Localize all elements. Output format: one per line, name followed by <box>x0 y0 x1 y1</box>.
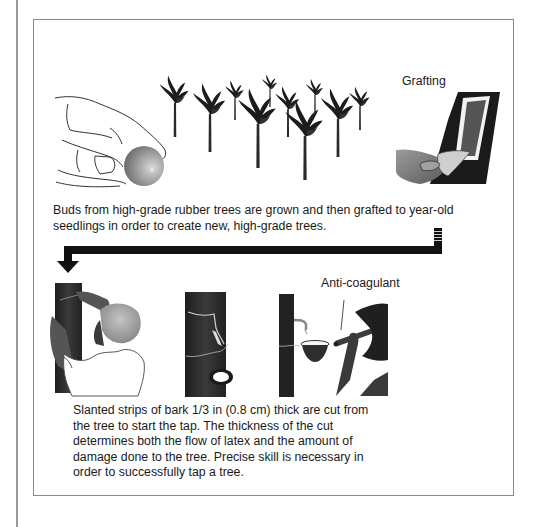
bud-icon <box>124 146 164 186</box>
anti-coagulant-label: Anti-coagulant <box>321 276 400 290</box>
grafting-caption: Buds from high-grade rubber trees are gr… <box>53 203 473 234</box>
grafting-illustration <box>396 92 500 184</box>
grafting-label: Grafting <box>402 74 446 88</box>
anti-coagulant-application-illustration <box>279 294 388 397</box>
tapper-cutting-bark-illustration <box>50 283 144 396</box>
seedling-trees-illustration <box>160 75 370 180</box>
process-arrow-icon <box>57 228 442 273</box>
bark-cut-and-cup-illustration <box>185 292 233 397</box>
tapping-caption: Slanted strips of bark 1/3 in (0.8 cm) t… <box>73 403 373 481</box>
